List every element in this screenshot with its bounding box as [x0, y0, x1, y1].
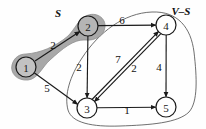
edge-weight-2-3: 2 — [76, 61, 82, 73]
node-3[interactable]: 3 — [77, 98, 97, 118]
node-5[interactable]: 5 — [156, 97, 176, 117]
edge-weight-3-4: 7 — [115, 53, 121, 65]
node-1-label: 1 — [23, 62, 29, 74]
node-4[interactable]: 4 — [156, 15, 176, 35]
edge-weight-4-3: 2 — [131, 62, 137, 74]
complement-set-label: V–S — [172, 5, 191, 17]
edge-4-3 — [94, 34, 160, 102]
node-1[interactable]: 1 — [16, 57, 36, 77]
node-2[interactable]: 2 — [78, 16, 98, 36]
graph-figure: 1 2 3 4 5 2 5 6 2 7 — [0, 0, 206, 129]
node-4-label: 4 — [163, 20, 169, 32]
node-2-label: 2 — [85, 21, 91, 33]
edge-weight-2-4: 6 — [119, 14, 125, 26]
edge-3-4 — [92, 31, 159, 99]
edge-1-2 — [35, 32, 80, 61]
node-5-label: 5 — [163, 102, 169, 114]
edge-2-3 — [87, 36, 88, 98]
source-set-label: S — [55, 7, 61, 19]
edge-weight-3-5: 1 — [124, 104, 130, 116]
edge-weight-1-3: 5 — [44, 82, 50, 94]
edge-2-4 — [98, 25, 156, 26]
graph-canvas: 1 2 3 4 5 2 5 6 2 7 — [0, 0, 206, 129]
edge-weight-1-2: 2 — [50, 39, 56, 51]
edge-group — [34, 25, 166, 108]
node-3-label: 3 — [84, 103, 90, 115]
edge-weight-4-5: 4 — [156, 61, 162, 73]
